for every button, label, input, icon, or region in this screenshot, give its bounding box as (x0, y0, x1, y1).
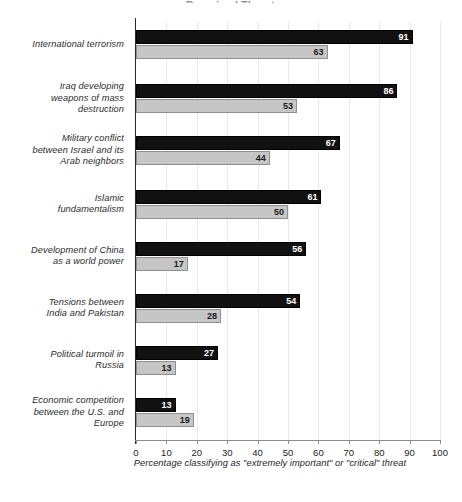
category-label: Military conflictbetween Israel and itsA… (0, 133, 124, 168)
x-axis-tick-label: 10 (151, 447, 181, 458)
category-label: Tensions betweenIndia and Pakistan (0, 297, 124, 320)
category-label-line: between the U.S. and (0, 407, 124, 419)
category-label-column: International terrorismIraq developingwe… (0, 22, 130, 440)
bar-value-label: 27 (204, 347, 217, 359)
bar-series-dark[interactable]: 91 (136, 30, 413, 44)
category-label-line: Arab neighbors (0, 156, 124, 168)
bar-value-label: 63 (314, 46, 327, 58)
category-label-line: Russia (0, 360, 124, 372)
bar-series-dark[interactable]: 61 (136, 190, 321, 204)
bar-series-dark[interactable]: 56 (136, 242, 306, 256)
category-label-line: India and Pakistan (0, 308, 124, 320)
bar-value-label: 13 (162, 399, 175, 411)
x-axis-tick (318, 440, 319, 444)
bar-series-light[interactable]: 44 (136, 151, 270, 165)
bar-series-dark[interactable]: 54 (136, 294, 300, 308)
x-axis-tick (136, 440, 137, 444)
category-label-line: as a world power (0, 256, 124, 268)
x-axis-tick (227, 440, 228, 444)
y-axis-line (135, 18, 136, 444)
category-label: Iraq developingweapons of massdestructio… (0, 81, 124, 116)
bar-value-label: 28 (207, 310, 220, 322)
bar-group: 5617 (136, 242, 440, 272)
x-axis-tick (379, 440, 380, 444)
bar-value-label: 54 (286, 295, 299, 307)
x-axis-tick (410, 440, 411, 444)
category-label: Economic competitionbetween the U.S. and… (0, 395, 124, 430)
x-axis-tick-label: 30 (212, 447, 242, 458)
chart-title: Perceived Threats (186, 0, 298, 3)
x-axis-tick-label: 40 (243, 447, 273, 458)
x-axis-tick (166, 440, 167, 444)
bar-group: 5428 (136, 294, 440, 324)
plot-area: 0102030405060708090100916386536744615056… (136, 22, 440, 440)
category-label-line: Europe (0, 418, 124, 430)
category-label-line: between Israel and its (0, 145, 124, 157)
bar-group: 8653 (136, 84, 440, 114)
x-axis-tick-label: 80 (364, 447, 394, 458)
x-axis-tick-label: 90 (395, 447, 425, 458)
gridline (440, 22, 441, 440)
category-label-line: weapons of mass (0, 93, 124, 105)
bar-value-label: 67 (326, 137, 339, 149)
bar-series-light[interactable]: 19 (136, 413, 194, 427)
category-label-line: Iraq developing (0, 81, 124, 93)
category-label-line: Tensions between (0, 297, 124, 309)
bar-series-light[interactable]: 17 (136, 257, 188, 271)
bar-series-dark[interactable]: 67 (136, 136, 340, 150)
bar-series-light[interactable]: 53 (136, 99, 297, 113)
bar-series-light[interactable]: 13 (136, 361, 176, 375)
category-label: International terrorism (0, 39, 124, 51)
bar-value-label: 13 (162, 362, 175, 374)
bar-value-label: 44 (256, 152, 269, 164)
x-axis-tick (349, 440, 350, 444)
x-axis-tick-label: 50 (273, 447, 303, 458)
x-axis-tick-label: 0 (121, 447, 151, 458)
category-label-line: Economic competition (0, 395, 124, 407)
bar-value-label: 50 (274, 206, 287, 218)
bar-group: 1319 (136, 398, 440, 428)
bar-group: 6150 (136, 190, 440, 220)
x-axis-tick-label: 60 (303, 447, 333, 458)
bar-series-light[interactable]: 63 (136, 45, 328, 59)
category-label-line: Political turmoil in (0, 349, 124, 361)
bar-series-dark[interactable]: 13 (136, 398, 176, 412)
bar-group: 9163 (136, 30, 440, 60)
x-axis-tick-label: 20 (182, 447, 212, 458)
x-axis-tick (258, 440, 259, 444)
category-label: Political turmoil inRussia (0, 349, 124, 372)
bar-value-label: 61 (307, 191, 320, 203)
bar-group: 2713 (136, 346, 440, 376)
category-label-line: International terrorism (0, 39, 124, 51)
category-label-line: Development of China (0, 245, 124, 257)
bar-group: 6744 (136, 136, 440, 166)
bar-series-dark[interactable]: 86 (136, 84, 397, 98)
x-axis-tick (288, 440, 289, 444)
x-axis-tick (197, 440, 198, 444)
bar-value-label: 17 (174, 258, 187, 270)
category-label-line: Islamic (0, 193, 124, 205)
category-label-line: destruction (0, 104, 124, 116)
bar-chart: Perceived Threats International terroris… (0, 0, 462, 502)
bar-value-label: 86 (383, 85, 396, 97)
x-axis-caption: Percentage classifying as "extremely imp… (90, 458, 450, 468)
category-label: Development of Chinaas a world power (0, 245, 124, 268)
category-label-line: fundamentalism (0, 204, 124, 216)
bar-value-label: 56 (292, 243, 305, 255)
x-axis-tick-label: 70 (334, 447, 364, 458)
category-label: Islamicfundamentalism (0, 193, 124, 216)
bar-value-label: 91 (399, 31, 412, 43)
bar-series-light[interactable]: 28 (136, 309, 221, 323)
x-axis-tick-label: 100 (425, 447, 455, 458)
x-axis-tick (440, 440, 441, 444)
category-label-line: Military conflict (0, 133, 124, 145)
bar-series-light[interactable]: 50 (136, 205, 288, 219)
bar-value-label: 53 (283, 100, 296, 112)
bar-value-label: 19 (180, 414, 193, 426)
bar-series-dark[interactable]: 27 (136, 346, 218, 360)
